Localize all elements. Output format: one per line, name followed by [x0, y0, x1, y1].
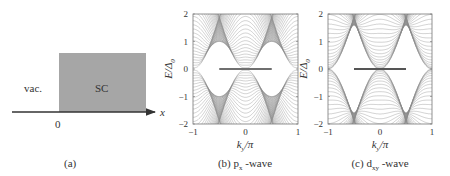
x-axis-ticks: −101 [188, 127, 300, 137]
x-tick-label: 0 [243, 127, 248, 137]
caption-a: (a) [64, 157, 77, 170]
figure: vac. SC 0 x (a) −2−1012 −101 E/Δ0 ky/π (… [0, 0, 450, 176]
panel-a-schematic: vac. SC 0 x (a) [12, 53, 165, 170]
y-tick-label: −1 [178, 92, 188, 102]
y-tick-label: 1 [319, 37, 324, 47]
x-axis-label: ky/π [372, 138, 389, 153]
x-tick-label: 1 [296, 127, 301, 137]
y-tick-label: 1 [184, 37, 189, 47]
vacuum-label: vac. [24, 82, 42, 94]
x-tick-label: 0 [378, 127, 383, 137]
caption-c: (c) dxy -wave [351, 157, 408, 172]
panel-b-chart: −2−1012 −101 E/Δ0 ky/π (b) px -wave [162, 0, 300, 173]
x-axis-ticks: −101 [323, 127, 434, 137]
panel-c-chart: −2−1012 −101 E/Δ0 ky/π (c) dxy -wave [297, 0, 434, 173]
y-axis-label: E/Δ0 [297, 59, 312, 80]
y-tick-label: −2 [178, 119, 188, 129]
y-tick-label: −1 [313, 92, 323, 102]
caption-b: (b) px -wave [218, 157, 272, 172]
y-tick-label: 2 [184, 9, 189, 19]
x-tick-label: −1 [188, 127, 198, 137]
x-tick-label: −1 [323, 127, 333, 137]
y-tick-label: 2 [319, 9, 324, 19]
y-tick-label: 0 [184, 64, 189, 74]
sc-label: SC [95, 82, 108, 94]
y-axis-label: E/Δ0 [162, 59, 177, 80]
y-tick-label: 0 [319, 64, 324, 74]
x-axis-label: ky/π [237, 138, 254, 153]
x-axis-label: x [159, 106, 165, 118]
x-tick-label: 1 [430, 127, 435, 137]
y-tick-label: −2 [313, 119, 323, 129]
origin-label: 0 [55, 118, 61, 130]
